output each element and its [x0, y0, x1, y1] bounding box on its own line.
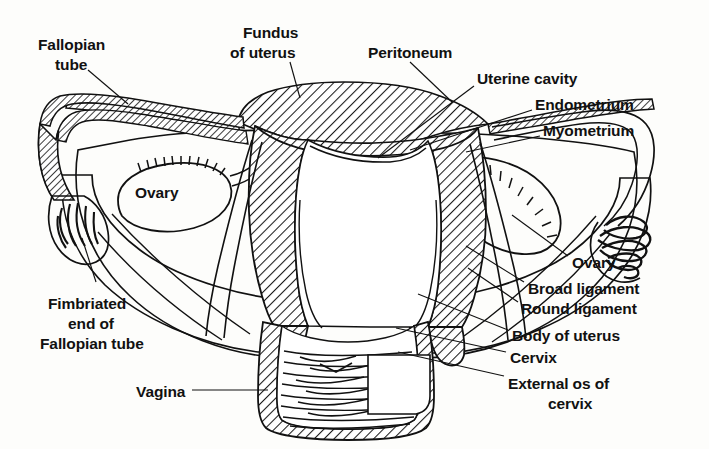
- uterine-cavity: [295, 140, 441, 328]
- diagram-svg: Fallopian tube Fundus of uterus Peritone…: [0, 0, 709, 449]
- label-cervix: Cervix: [510, 349, 557, 366]
- label-fallopian-tube-line1: Fallopian: [38, 36, 105, 53]
- anatomy-diagram: Fallopian tube Fundus of uterus Peritone…: [0, 0, 709, 449]
- label-external-os-line2: cervix: [548, 395, 593, 412]
- label-myometrium: Myometrium: [543, 122, 634, 139]
- label-fundus-line1: Fundus: [243, 24, 298, 41]
- label-fimbriated-line2: end of: [68, 315, 115, 332]
- label-round-ligament: Round ligament: [521, 300, 637, 317]
- label-broad-ligament: Broad ligament: [528, 280, 639, 297]
- label-vagina: Vagina: [136, 383, 186, 400]
- label-peritoneum: Peritoneum: [368, 44, 452, 61]
- label-fimbriated-line3: Fallopian tube: [40, 335, 144, 352]
- label-body-of-uterus: Body of uterus: [512, 327, 620, 344]
- label-uterine-cavity: Uterine cavity: [477, 70, 578, 87]
- label-fallopian-tube-line2: tube: [55, 56, 88, 73]
- label-fimbriated-line1: Fimbriated: [48, 295, 126, 312]
- label-endometrium: Endometrium: [535, 96, 634, 113]
- label-fundus-line2: of uterus: [230, 44, 295, 61]
- label-external-os-line1: External os of: [508, 375, 610, 392]
- label-ovary-left: Ovary: [135, 184, 179, 201]
- label-ovary-right: Ovary: [572, 254, 616, 271]
